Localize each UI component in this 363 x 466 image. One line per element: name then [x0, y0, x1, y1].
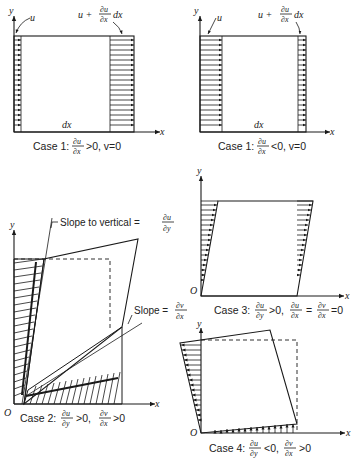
slope-label: Slope = — [134, 305, 168, 316]
deformed-element — [201, 201, 313, 296]
svg-text:∂x: ∂x — [285, 449, 293, 458]
svg-text:=: = — [306, 304, 312, 316]
svg-text:∂x: ∂x — [318, 311, 326, 320]
slope-vertical-line — [22, 218, 52, 404]
svg-text:∂u: ∂u — [250, 439, 258, 448]
svg-text:∂x: ∂x — [73, 147, 81, 156]
velocity-arrows-right — [110, 40, 134, 125]
frac-den: ∂x — [176, 312, 184, 321]
velocity-profile-left — [181, 345, 201, 420]
dx-suffix: dx — [294, 9, 304, 20]
svg-text:∂x: ∂x — [258, 147, 266, 156]
svg-text:Case 4:: Case 4: — [209, 442, 245, 454]
svg-text:∂u: ∂u — [73, 137, 81, 146]
velocity-profile-right — [297, 205, 312, 275]
velocity-arrows-left — [200, 40, 222, 125]
velocity-arrows-right — [298, 40, 306, 125]
svg-text:∂y: ∂y — [256, 311, 264, 320]
y-axis-label: y — [193, 5, 199, 16]
frac-num: ∂u — [281, 5, 289, 14]
svg-text:∂u: ∂u — [291, 301, 299, 310]
panel-case4: y x O — [180, 318, 351, 458]
dx-label: dx — [254, 119, 264, 130]
x-axis-label: x — [159, 126, 165, 137]
dx-suffix: dx — [113, 9, 123, 20]
frac-num: ∂u — [163, 213, 171, 222]
original-element-outline — [14, 259, 110, 328]
x-axis-label: x — [344, 290, 350, 301]
u-label: u — [217, 12, 222, 23]
u-plus-label: u + — [78, 9, 92, 20]
frac-den: ∂y — [163, 224, 171, 233]
velocity-profile-left — [201, 205, 217, 280]
y-axis-label: y — [9, 219, 15, 230]
svg-text:∂y: ∂y — [62, 419, 70, 428]
caption-case4: Case 4: ∂u ∂y <0, ∂v ∂x >0 — [209, 439, 311, 458]
svg-text:Case 2:: Case 2: — [20, 412, 56, 424]
svg-text:>0, v=0: >0, v=0 — [86, 140, 121, 152]
dx-label: dx — [62, 119, 72, 130]
deformed-element — [24, 239, 138, 404]
svg-text:∂v: ∂v — [100, 409, 108, 418]
svg-text:∂x: ∂x — [291, 311, 299, 320]
x-axis-label: x — [345, 427, 351, 438]
svg-text:>0,: >0, — [269, 304, 284, 316]
caption-case3: Case 3: ∂u ∂y >0, ∂u ∂x = ∂v ∂x =0 — [214, 301, 343, 320]
svg-text:∂x: ∂x — [100, 419, 108, 428]
frac-den: ∂x — [100, 15, 108, 24]
x-axis-label: x — [154, 398, 160, 409]
y-axis-label: y — [196, 165, 202, 176]
frac-num: ∂u — [100, 5, 108, 14]
svg-text:∂y: ∂y — [250, 449, 258, 458]
caption-case1-negative: Case 1: ∂u ∂x <0, v=0 — [218, 137, 306, 156]
origin-label: O — [190, 285, 197, 296]
u-label: u — [30, 12, 35, 23]
y-axis-label: y — [196, 318, 202, 329]
x-axis-label: x — [329, 126, 335, 137]
frac-den: ∂x — [281, 15, 289, 24]
svg-text:Case 1:: Case 1: — [218, 140, 254, 152]
svg-text:>0: >0 — [113, 412, 125, 424]
slope-vertical-label: Slope to vertical = — [60, 217, 140, 228]
origin-label: O — [4, 407, 11, 418]
caption-case2: Case 2: ∂u ∂y >0, ∂v ∂x >0 — [20, 409, 125, 428]
caption-case1-positive: Case 1: ∂u ∂x >0, v=0 — [33, 137, 121, 156]
panel-case2: y x O — [4, 213, 187, 428]
frac-num: ∂v — [176, 301, 184, 310]
svg-text:<0, v=0: <0, v=0 — [271, 140, 306, 152]
svg-text:Case 3:: Case 3: — [214, 304, 250, 316]
svg-text:=0: =0 — [331, 304, 343, 316]
original-element-outline — [201, 340, 297, 433]
panel-case3: y x O — [190, 165, 350, 320]
y-axis-label: y — [8, 5, 14, 16]
fluid-deformation-diagram: y x — [0, 0, 363, 466]
svg-text:>0,: >0, — [76, 412, 91, 424]
panel-case1-positive: y x — [8, 5, 165, 156]
svg-text:∂u: ∂u — [258, 137, 266, 146]
svg-text:Case 1:: Case 1: — [33, 140, 69, 152]
u-plus-label: u + — [258, 9, 272, 20]
svg-text:∂v: ∂v — [285, 439, 293, 448]
svg-text:>0: >0 — [299, 442, 311, 454]
deformed-element — [180, 330, 297, 433]
svg-text:∂u: ∂u — [62, 409, 70, 418]
svg-text:∂v: ∂v — [318, 301, 326, 310]
origin-label: O — [190, 427, 197, 438]
velocity-arrows-left — [14, 40, 21, 125]
panel-case1-negative: y x — [193, 5, 335, 156]
svg-text:∂u: ∂u — [256, 301, 264, 310]
svg-text:<0,: <0, — [264, 442, 279, 454]
